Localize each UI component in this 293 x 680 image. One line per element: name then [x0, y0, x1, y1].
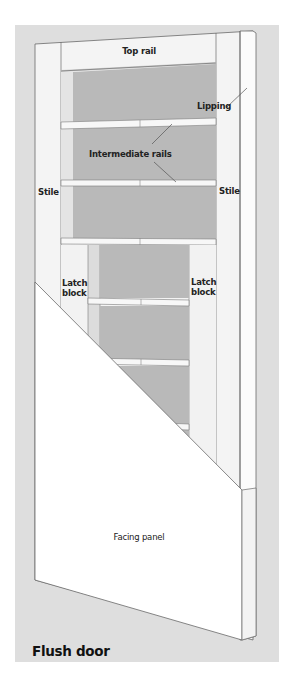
label-stile-right: Stile [219, 186, 240, 196]
label-facing-panel: Facing panel [113, 532, 164, 542]
label-latch-left-2: block [62, 288, 87, 298]
label-latch-left-1: Latch [62, 278, 87, 288]
core-cell [100, 245, 189, 298]
door-illustration [0, 0, 293, 680]
flush-door-diagram: Top rail Lipping Intermediate rails Stil… [0, 0, 293, 680]
label-latch-right-1: Latch [191, 277, 216, 287]
label-latch-right-2: block [191, 287, 216, 297]
core-cell [73, 186, 216, 240]
intermediate-rail [61, 238, 216, 245]
diagram-title: Flush door [32, 643, 110, 659]
label-stile-left: Stile [38, 187, 59, 197]
label-intermediate-rails: Intermediate rails [89, 149, 172, 159]
core-cell [100, 306, 189, 360]
intermediate-rail [61, 180, 216, 186]
core-cell [73, 64, 216, 122]
label-lipping: Lipping [197, 101, 231, 111]
label-top-rail: Top rail [122, 46, 156, 56]
